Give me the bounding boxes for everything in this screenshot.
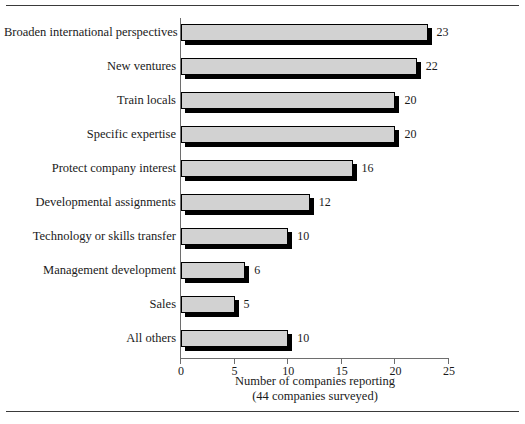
x-axis-title-line2: (44 companies surveyed) bbox=[181, 389, 449, 404]
bar-row: 23 bbox=[181, 18, 449, 52]
bar-value-label: 23 bbox=[437, 25, 449, 40]
bar-value-label: 20 bbox=[404, 93, 416, 108]
bar-row: 16 bbox=[181, 154, 449, 188]
category-label: Developmental assignments bbox=[4, 195, 176, 210]
bar-value-label: 6 bbox=[254, 263, 260, 278]
bar bbox=[181, 296, 235, 313]
plot-area: 0510152025232220201612106510 bbox=[181, 18, 449, 358]
bar bbox=[181, 262, 245, 279]
category-label: Broaden international perspectives bbox=[4, 25, 176, 40]
bar-row: 5 bbox=[181, 290, 449, 324]
bar-value-label: 16 bbox=[362, 161, 374, 176]
category-label: Train locals bbox=[4, 93, 176, 108]
bar-value-label: 5 bbox=[244, 297, 250, 312]
bar-value-label: 20 bbox=[404, 127, 416, 142]
bar-row: 20 bbox=[181, 86, 449, 120]
bar bbox=[181, 194, 310, 211]
category-axis-labels: Broaden international perspectivesNew ve… bbox=[0, 18, 176, 358]
category-label: Protect company interest bbox=[4, 161, 176, 176]
category-label: All others bbox=[4, 331, 176, 346]
bar bbox=[181, 160, 353, 177]
category-label: Management development bbox=[4, 263, 176, 278]
x-axis-line bbox=[180, 358, 449, 359]
category-label: Specific expertise bbox=[4, 127, 176, 142]
x-axis-title-line1: Number of companies reporting bbox=[181, 374, 449, 389]
bar bbox=[181, 330, 288, 347]
x-axis-title: Number of companies reporting (44 compan… bbox=[181, 374, 449, 404]
bottom-divider-rule bbox=[6, 411, 519, 412]
bar-row: 6 bbox=[181, 256, 449, 290]
bar-row: 10 bbox=[181, 324, 449, 358]
bar bbox=[181, 228, 288, 245]
bar-row: 12 bbox=[181, 188, 449, 222]
chart-figure: Broaden international perspectivesNew ve… bbox=[0, 0, 525, 424]
category-label: New ventures bbox=[4, 59, 176, 74]
bar-value-label: 10 bbox=[297, 229, 309, 244]
bar-value-label: 22 bbox=[426, 59, 438, 74]
category-label: Sales bbox=[4, 297, 176, 312]
bar bbox=[181, 58, 417, 75]
bar bbox=[181, 92, 395, 109]
bar-row: 20 bbox=[181, 120, 449, 154]
bar-row: 10 bbox=[181, 222, 449, 256]
bar-value-label: 10 bbox=[297, 331, 309, 346]
bar bbox=[181, 126, 395, 143]
bar-value-label: 12 bbox=[319, 195, 331, 210]
bar bbox=[181, 24, 428, 41]
top-divider-rule bbox=[6, 5, 519, 6]
category-label: Technology or skills transfer bbox=[4, 229, 176, 244]
bar-row: 22 bbox=[181, 52, 449, 86]
